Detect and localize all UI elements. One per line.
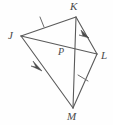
segment-jk	[21, 17, 76, 36]
vertex-label-k: K	[70, 1, 77, 12]
segment-lm	[73, 54, 97, 108]
vertex-label-p: P	[58, 47, 64, 57]
geometry-figure: J K L M P	[0, 0, 113, 125]
tick-mark-jk-icon	[40, 17, 44, 27]
vertex-label-m: M	[67, 111, 76, 122]
vertex-label-l: L	[101, 50, 107, 61]
figure-canvas	[0, 0, 113, 125]
vertex-label-j: J	[8, 30, 13, 41]
segment-km-diagonal	[73, 17, 76, 108]
